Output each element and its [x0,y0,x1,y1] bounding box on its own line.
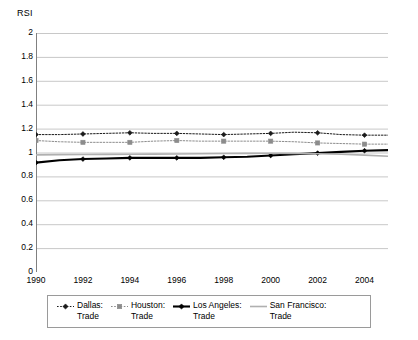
legend-label-line2: Trade [77,311,103,322]
series-line [36,153,388,156]
x-axis-tick-label: 1994 [110,275,150,285]
y-axis-tick-label: 1.2 [3,124,33,133]
x-axis-tick-label: 2002 [298,275,338,285]
y-axis-tick-label: 1.8 [3,52,33,61]
data-point-marker [127,130,132,135]
chart-container: RSI 00.20.40.60.811.21.41.61.82 19901992… [0,0,418,340]
y-axis-tick-label: 2 [3,28,33,37]
series-line [36,150,388,163]
legend-label-line2: Trade [131,311,165,322]
legend-items: Dallas:TradeHouston:TradeLos Angeles:Tra… [48,296,370,327]
x-axis-tick-label: 2004 [345,275,385,285]
data-point-marker [268,131,273,136]
legend-label: Los Angeles:Trade [193,300,242,321]
data-point-marker [222,139,226,143]
legend-item[interactable]: Los Angeles:Trade [172,300,242,321]
data-point-marker [362,133,367,138]
data-point-marker [36,132,38,137]
legend-swatch-diamond [56,301,75,312]
y-axis-tick-labels: 00.20.40.60.811.21.41.61.82 [0,33,33,272]
chart-legend: Dallas:TradeHouston:TradeLos Angeles:Tra… [47,295,371,328]
legend-label: San Francisco:Trade [270,300,327,321]
x-axis-tick-labels: 19901992199419961998200020022004 [36,275,388,289]
legend-label-line2: Trade [193,311,242,322]
y-axis-tick-label: 1.6 [3,76,33,85]
legend-swatch-diamond [172,301,191,312]
data-point-marker [36,138,38,142]
x-axis-tick-label: 1998 [204,275,244,285]
y-axis-tick-label: 1 [3,148,33,157]
data-point-marker [36,160,38,165]
legend-swatch-line [249,301,268,312]
y-axis-tick-label: 0.2 [3,243,33,252]
y-axis-unit-label: RSI [17,8,33,18]
x-axis-tick-label: 1996 [157,275,197,285]
data-point-marker [128,140,132,144]
data-point-marker [81,157,86,162]
legend-swatch-square [110,301,129,312]
y-axis-tick-label: 0.6 [3,195,33,204]
y-axis-tick-label: 0.4 [3,219,33,228]
x-axis-tick-label: 2000 [251,275,291,285]
data-point-marker [315,130,320,135]
legend-item[interactable]: Dallas:Trade [56,300,103,321]
legend-label-line1: San Francisco: [270,300,327,310]
data-point-marker [81,132,86,137]
x-axis-tick-label: 1992 [63,275,103,285]
data-point-marker [81,140,85,144]
legend-item[interactable]: San Francisco:Trade [249,300,327,321]
y-axis-tick-label: 1.4 [3,100,33,109]
y-axis-tick-label: 0.8 [3,171,33,180]
data-point-marker [362,148,367,153]
legend-label-line1: Los Angeles: [193,300,242,310]
legend-label: Dallas:Trade [77,300,103,321]
data-point-marker [221,132,226,137]
legend-item[interactable]: Houston:Trade [110,300,165,321]
data-point-marker [362,142,366,146]
series-line [36,141,388,145]
chart-plot-svg [36,33,388,272]
data-point-marker [174,131,179,136]
legend-label-line1: Houston: [131,300,165,310]
plot-area [36,33,388,272]
legend-label-line1: Dallas: [77,300,103,310]
data-point-marker [127,155,132,160]
data-point-marker [175,138,179,142]
series-line [36,132,388,135]
data-point-marker [174,155,179,160]
data-point-marker [221,155,226,160]
x-axis-tick-label: 1990 [16,275,56,285]
data-point-marker [269,139,273,143]
legend-label-line2: Trade [270,311,327,322]
data-point-marker [316,141,320,145]
legend-label: Houston:Trade [131,300,165,321]
